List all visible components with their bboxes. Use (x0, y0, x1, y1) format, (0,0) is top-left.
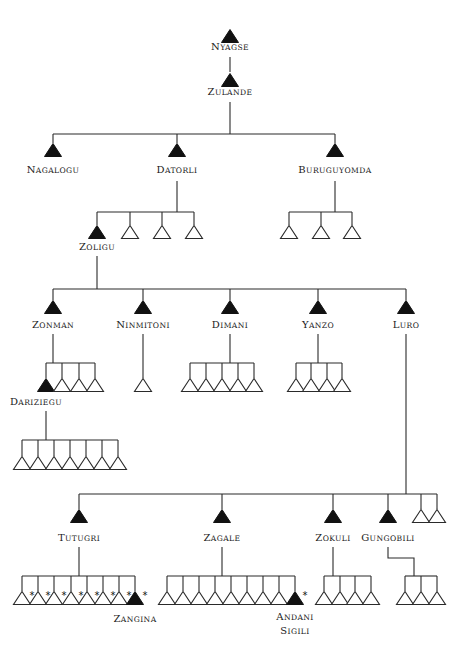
node-label: NAGALOGU (27, 164, 80, 175)
filled-triangle-icon (327, 144, 344, 157)
node-label: GUNGOBILI (361, 532, 415, 543)
asterisk-marker-icon: * (143, 590, 148, 601)
open-triangle-icon (347, 592, 364, 605)
open-triangle-icon (429, 510, 446, 523)
filled-triangle-icon (222, 30, 239, 43)
node-label: NINMITONI (116, 319, 170, 330)
filled-triangle-icon (169, 144, 186, 157)
open-triangle-icon (198, 379, 215, 392)
open-triangle-icon (303, 379, 320, 392)
filled-triangle-icon (287, 592, 304, 605)
filled-triangle-icon (38, 379, 55, 392)
open-triangle-icon (71, 379, 88, 392)
open-triangle-icon (344, 226, 361, 239)
filled-triangle-icon (222, 74, 239, 87)
open-triangle-icon (288, 379, 305, 392)
node-label: ZOKULI (315, 532, 350, 543)
node-label: TUTUGRI (58, 532, 100, 543)
open-triangle-icon (239, 592, 256, 605)
open-triangle-icon (255, 592, 272, 605)
open-triangle-icon (397, 592, 414, 605)
open-triangle-icon (281, 226, 298, 239)
open-triangle-icon (159, 592, 176, 605)
open-triangle-icon (319, 379, 336, 392)
open-triangle-icon (271, 592, 288, 605)
open-triangle-icon (334, 379, 351, 392)
open-triangle-icon (230, 379, 247, 392)
open-triangle-icon (46, 457, 63, 470)
node-label: ZULANDE (208, 86, 253, 97)
node-label: YANZO (301, 319, 334, 330)
node-label: SIGILI (280, 625, 309, 636)
open-triangle-icon (223, 592, 240, 605)
open-triangle-icon (207, 592, 224, 605)
filled-triangle-icon (398, 301, 415, 314)
genealogy-diagram: ********* NYAGSEZULANDENAGALOGUDATORLIBU… (0, 0, 467, 650)
node-label: LURO (393, 319, 420, 330)
open-triangle-icon (316, 592, 333, 605)
open-triangle-icon (429, 592, 446, 605)
node-label: ZOLIGU (79, 241, 115, 252)
filled-triangle-icon (135, 301, 152, 314)
node-label: BURUGUYOMDA (298, 164, 371, 175)
node-label: DATORLI (157, 164, 198, 175)
open-triangle-icon (363, 592, 380, 605)
node-label: NYAGSE (211, 41, 249, 52)
open-triangle-icon (14, 592, 31, 605)
filled-triangle-icon (222, 301, 239, 314)
filled-triangle-icon (45, 144, 62, 157)
node-label: ZONMAN (32, 319, 74, 330)
filled-triangle-icon (71, 510, 88, 523)
labels-layer: NYAGSEZULANDENAGALOGUDATORLIBURUGUYOMDAZ… (10, 41, 419, 636)
open-triangle-icon (413, 510, 430, 523)
open-triangle-icon (182, 379, 199, 392)
node-label: DIMANI (212, 319, 248, 330)
node-label: ANDANI (275, 611, 314, 622)
open-triangle-icon (94, 457, 111, 470)
open-triangle-icon (30, 457, 47, 470)
open-triangle-icon (413, 592, 430, 605)
open-triangle-icon (154, 226, 171, 239)
open-triangle-icon (87, 379, 104, 392)
open-triangle-icon (54, 379, 71, 392)
open-triangle-icon (186, 226, 203, 239)
filled-triangle-icon (310, 301, 327, 314)
open-triangle-icon (110, 457, 127, 470)
open-triangle-icon (62, 457, 79, 470)
filled-triangle-icon (89, 226, 106, 239)
edge-line (388, 547, 414, 576)
filled-triangle-icon (380, 510, 397, 523)
open-triangle-icon (313, 226, 330, 239)
filled-triangle-icon (325, 510, 342, 523)
node-label: ZAGALE (204, 532, 241, 543)
open-triangle-icon (246, 379, 263, 392)
node-label: ZANGINA (113, 613, 156, 624)
open-triangle-icon (122, 226, 139, 239)
open-triangle-icon (14, 457, 31, 470)
filled-triangle-icon (45, 301, 62, 314)
filled-triangle-icon (214, 510, 231, 523)
open-triangle-icon (78, 457, 95, 470)
open-triangle-icon (332, 592, 349, 605)
open-triangle-icon (175, 592, 192, 605)
node-label: DARIZIEGU (10, 396, 62, 407)
open-triangle-icon (191, 592, 208, 605)
open-triangle-icon (214, 379, 231, 392)
open-triangle-icon (135, 379, 152, 392)
asterisk-marker-icon: * (303, 590, 308, 601)
